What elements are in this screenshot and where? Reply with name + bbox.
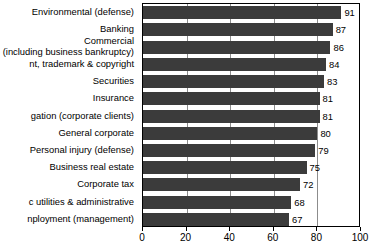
x-tick-label-0: 0: [139, 232, 145, 243]
bar-row: 75: [143, 161, 361, 174]
category-label: nt, trademark & copyright: [0, 58, 138, 69]
bar-value-label: 81: [320, 110, 333, 123]
bar-value-label: 72: [300, 178, 313, 191]
bar: [143, 58, 326, 71]
bar-row: 84: [143, 58, 361, 71]
category-label: Business real estate: [0, 161, 138, 172]
bar: [143, 75, 324, 88]
bar-value-label: 87: [333, 23, 346, 36]
x-tick-label-80: 80: [311, 232, 322, 243]
category-label-line: Personal injury (defense): [30, 144, 134, 155]
bar-row: 81: [143, 92, 361, 105]
bar-value-label: 81: [320, 92, 333, 105]
category-label-column: Environmental (defense)BankingCommercial…: [0, 0, 138, 224]
bar-value-label: 80: [317, 127, 330, 140]
bar: [143, 23, 333, 36]
category-label: Environmental (defense): [0, 6, 138, 17]
category-label-line: Securities: [93, 75, 134, 86]
x-tick-mark-20: [186, 227, 187, 231]
x-tick-mark-0: [142, 227, 143, 231]
bar-row: 72: [143, 178, 361, 191]
bar-value-label: 79: [315, 144, 328, 157]
bar-row: 80: [143, 127, 361, 140]
bar: [143, 110, 320, 123]
x-tick-mark-100: [360, 227, 361, 231]
category-label-line: Corporate tax: [77, 178, 134, 189]
bar-row: 68: [143, 196, 361, 209]
category-label: Personal injury (defense): [0, 144, 138, 155]
bar-row: 91: [143, 6, 361, 19]
category-label: General corporate: [0, 127, 138, 138]
x-tick-label-20: 20: [180, 232, 191, 243]
bar-row: 87: [143, 23, 361, 36]
bar: [143, 196, 291, 209]
category-label-line: c utilities & administrative: [29, 196, 134, 207]
category-label-line: (including business bankruptcy): [0, 46, 134, 57]
category-label: Banking: [0, 23, 138, 34]
category-label-line: Banking: [100, 23, 134, 34]
category-label-line: nt, trademark & copyright: [29, 58, 134, 69]
bar-row: 83: [143, 75, 361, 88]
x-tick-label-100: 100: [352, 232, 369, 243]
x-tick-label-40: 40: [224, 232, 235, 243]
bar-row: 81: [143, 110, 361, 123]
category-label-line: Commercial: [84, 35, 134, 46]
x-tick-mark-80: [316, 227, 317, 231]
bar-value-label: 75: [307, 161, 320, 174]
category-label-line: Environmental (defense): [32, 6, 134, 17]
bar-value-label: 86: [330, 41, 343, 54]
category-label: Insurance: [0, 92, 138, 103]
x-tick-mark-40: [229, 227, 230, 231]
bar-value-label: 68: [291, 196, 304, 209]
category-label: Commercial(including business bankruptcy…: [0, 35, 138, 57]
category-label: Securities: [0, 75, 138, 86]
bar-row: 86: [143, 41, 361, 54]
bar-value-label: 91: [341, 6, 354, 19]
category-label: Corporate tax: [0, 178, 138, 189]
bar-value-label: 67: [289, 213, 302, 226]
bar: [143, 127, 317, 140]
x-axis: 020406080100: [142, 227, 360, 252]
x-tick-mark-60: [273, 227, 274, 231]
x-tick-label-60: 60: [267, 232, 278, 243]
category-label-line: nployment (management): [27, 213, 134, 224]
category-label: c utilities & administrative: [0, 196, 138, 207]
category-label-line: General corporate: [58, 127, 134, 138]
plot-area: 91878684838181807975726867: [142, 3, 360, 227]
bar: [143, 213, 289, 226]
bar-row: 79: [143, 144, 361, 157]
bar: [143, 92, 320, 105]
category-label-line: Business real estate: [50, 161, 134, 172]
bar-value-label: 84: [326, 58, 339, 71]
bar-row: 67: [143, 213, 361, 226]
category-label: gation (corporate clients): [0, 110, 138, 121]
bar-value-label: 83: [324, 75, 337, 88]
category-label: nployment (management): [0, 213, 138, 224]
bar: [143, 161, 307, 174]
bar: [143, 178, 300, 191]
category-label-line: gation (corporate clients): [31, 110, 134, 121]
bar: [143, 144, 315, 157]
bar: [143, 41, 330, 54]
category-label-line: Insurance: [93, 92, 134, 103]
bar: [143, 6, 341, 19]
horizontal-bar-chart: Environmental (defense)BankingCommercial…: [0, 0, 373, 252]
